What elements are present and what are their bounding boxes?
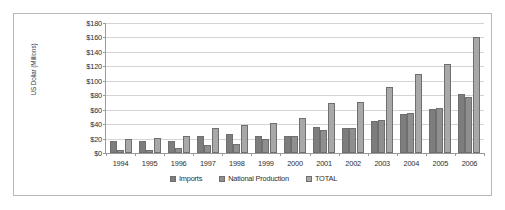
- bar-group: [342, 23, 364, 153]
- bar: [299, 118, 306, 153]
- x-tick-mark: [251, 153, 252, 156]
- y-tick-label: $160: [86, 33, 102, 42]
- x-tick-mark: [426, 153, 427, 156]
- y-tick-mark: [103, 52, 106, 53]
- x-tick-mark: [164, 153, 165, 156]
- bar: [255, 136, 262, 153]
- bar: [378, 120, 385, 153]
- x-tick-mark: [397, 153, 398, 156]
- bar: [342, 128, 349, 153]
- bar-group: [110, 23, 132, 153]
- bar: [291, 136, 298, 153]
- y-tick-mark: [103, 139, 106, 140]
- bar: [204, 145, 211, 153]
- chart-container: US Dollar (Millions) $0$20$40$60$80$100$…: [13, 13, 492, 196]
- bar: [444, 64, 451, 153]
- y-tick-mark: [103, 124, 106, 125]
- bar-group: [139, 23, 161, 153]
- x-tick-label: 2001: [316, 159, 332, 168]
- x-tick-label: 2003: [374, 159, 390, 168]
- bar-group: [400, 23, 422, 153]
- bar: [371, 121, 378, 153]
- x-tick-label: 2002: [345, 159, 361, 168]
- legend-item[interactable]: National Production: [219, 174, 289, 183]
- bar-group: [255, 23, 277, 153]
- x-tick-label: 2005: [433, 159, 449, 168]
- x-tick-label: 1997: [200, 159, 216, 168]
- bar: [262, 139, 269, 153]
- bar: [125, 139, 132, 153]
- x-tick-label: 1999: [258, 159, 274, 168]
- y-tick-mark: [103, 37, 106, 38]
- bar: [197, 136, 204, 153]
- y-tick-label: $140: [86, 47, 102, 56]
- bar: [320, 130, 327, 153]
- bar-group: [313, 23, 335, 153]
- legend-swatch-icon: [219, 176, 225, 182]
- bar: [270, 123, 277, 153]
- bar: [465, 97, 472, 153]
- bar: [110, 141, 117, 153]
- y-tick-label: $20: [90, 134, 102, 143]
- chart-legend: ImportsNational ProductionTOTAL: [14, 174, 493, 183]
- legend-label: National Production: [228, 174, 289, 183]
- bar: [357, 102, 364, 153]
- legend-label: TOTAL: [315, 174, 337, 183]
- bar: [139, 141, 146, 153]
- legend-swatch-icon: [306, 176, 312, 182]
- bar: [175, 148, 182, 153]
- x-tick-mark: [455, 153, 456, 156]
- bar: [415, 74, 422, 153]
- y-tick-mark: [103, 23, 106, 24]
- x-tick-label: 1994: [113, 159, 129, 168]
- y-tick-label: $180: [86, 19, 102, 28]
- bar: [386, 87, 393, 153]
- bar: [146, 150, 153, 153]
- bar: [168, 141, 175, 153]
- legend-label: Imports: [179, 174, 202, 183]
- bar-group: [429, 23, 451, 153]
- plot-area: $0$20$40$60$80$100$120$140$160$180 19941…: [105, 23, 484, 154]
- y-tick-label: $100: [86, 76, 102, 85]
- bar: [328, 103, 335, 153]
- x-tick-mark: [368, 153, 369, 156]
- bar: [313, 127, 320, 153]
- x-tick-label: 2000: [287, 159, 303, 168]
- legend-item[interactable]: Imports: [170, 174, 202, 183]
- x-tick-label: 1995: [142, 159, 158, 168]
- bar: [212, 128, 219, 153]
- bar: [233, 144, 240, 153]
- y-tick-label: $120: [86, 62, 102, 71]
- y-tick-mark: [103, 66, 106, 67]
- bar: [241, 125, 248, 153]
- y-tick-mark: [103, 81, 106, 82]
- bar: [154, 138, 161, 153]
- x-tick-mark: [135, 153, 136, 156]
- y-tick-mark: [103, 110, 106, 111]
- y-tick-label: $60: [90, 105, 102, 114]
- legend-item[interactable]: TOTAL: [306, 174, 337, 183]
- bar: [407, 113, 414, 153]
- x-tick-mark: [484, 153, 485, 156]
- bar: [458, 94, 465, 153]
- x-tick-label: 1996: [171, 159, 187, 168]
- y-tick-label: $80: [90, 91, 102, 100]
- bar: [226, 134, 233, 153]
- x-tick-mark: [280, 153, 281, 156]
- legend-swatch-icon: [170, 176, 176, 182]
- y-axis-title: US Dollar (Millions): [30, 18, 37, 122]
- bar: [400, 114, 407, 153]
- x-tick-label: 2006: [462, 159, 478, 168]
- y-tick-label: $0: [94, 149, 102, 158]
- bar-group: [226, 23, 248, 153]
- y-tick-mark: [103, 95, 106, 96]
- x-tick-mark: [222, 153, 223, 156]
- x-tick-mark: [310, 153, 311, 156]
- x-tick-mark: [339, 153, 340, 156]
- bar-group: [197, 23, 219, 153]
- bar: [436, 108, 443, 153]
- x-tick-mark: [106, 153, 107, 156]
- bar: [284, 136, 291, 153]
- bar-group: [458, 23, 480, 153]
- bar: [183, 136, 190, 153]
